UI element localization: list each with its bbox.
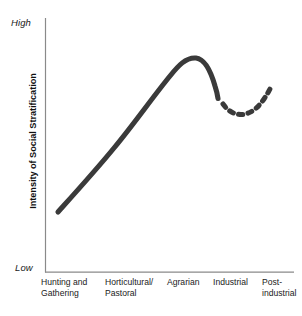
stratification-curve-solid <box>58 58 218 212</box>
x-tick-label-line1: Post- <box>262 277 282 287</box>
x-tick-label-agrarian: Agrarian <box>167 277 215 288</box>
x-tick-label-post-industrial: Post- industrial <box>262 277 302 300</box>
chart-plot-area <box>0 0 302 316</box>
x-tick-label-line1: Hunting and <box>41 277 87 287</box>
x-tick-label-horticultural-pastoral: Horticultural/ Pastoral <box>105 277 167 300</box>
x-axis-tick-labels: Hunting and Gathering Horticultural/ Pas… <box>0 277 302 316</box>
y-axis-title: Intensity of Social Stratification <box>28 46 38 236</box>
x-tick-label-line1: Industrial <box>213 277 248 287</box>
stratification-curve-dashed <box>223 88 271 115</box>
y-axis-low-label: Low <box>15 262 33 273</box>
x-tick-label-line2: Gathering <box>41 288 105 299</box>
axis-lines <box>45 18 294 273</box>
x-tick-label-line2: industrial <box>262 288 302 299</box>
x-tick-label-industrial: Industrial <box>213 277 263 288</box>
chart-figure: High Low Intensity of Social Stratificat… <box>0 0 302 316</box>
x-tick-label-line1: Agrarian <box>167 277 199 287</box>
x-tick-label-line1: Horticultural/ <box>105 277 153 287</box>
x-tick-label-hunting-and-gathering: Hunting and Gathering <box>41 277 105 300</box>
y-axis-high-label: High <box>11 17 31 28</box>
x-tick-label-line2: Pastoral <box>105 288 167 299</box>
